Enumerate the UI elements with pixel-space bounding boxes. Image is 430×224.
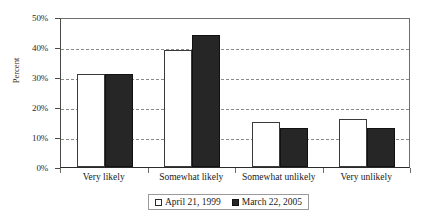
y-axis-tick-label: 50% — [8, 14, 48, 23]
chart-legend: April 21, 1999 March 22, 2005 — [148, 194, 309, 210]
gridline — [61, 49, 409, 50]
y-axis-title: Percent — [12, 31, 21, 111]
bar-series2 — [280, 128, 308, 167]
y-axis-tick-label: 40% — [8, 44, 48, 53]
legend-label-2: March 22, 2005 — [242, 197, 302, 207]
x-axis-category-label: Very unlikely — [323, 172, 411, 183]
x-axis-tick-mark — [410, 168, 411, 173]
plot-area — [60, 18, 410, 168]
legend-swatch-dark-icon — [232, 199, 239, 206]
y-axis-tick-label: 20% — [8, 104, 48, 113]
x-axis-category-label: Somewhat unlikely — [235, 172, 323, 183]
x-axis-category-label: Very likely — [60, 172, 148, 183]
legend-label-1: April 21, 1999 — [165, 197, 221, 207]
bar-series2 — [367, 128, 395, 167]
bar-series2 — [105, 74, 133, 167]
bar-series2 — [192, 35, 220, 167]
bar-series1 — [252, 122, 280, 167]
bar-series1 — [77, 74, 105, 167]
legend-entry-2: March 22, 2005 — [232, 197, 302, 207]
bar-chart: Percent 0%10%20%30%40%50% Very likelySom… — [0, 0, 430, 224]
x-axis-category-label: Somewhat likely — [148, 172, 236, 183]
bar-series1 — [339, 119, 367, 167]
y-axis-tick-label: 10% — [8, 134, 48, 143]
legend-swatch-light-icon — [155, 199, 162, 206]
bar-series1 — [164, 50, 192, 167]
y-axis-tick-label: 0% — [8, 164, 48, 173]
legend-entry-1: April 21, 1999 — [155, 197, 221, 207]
y-axis-tick-label: 30% — [8, 74, 48, 83]
